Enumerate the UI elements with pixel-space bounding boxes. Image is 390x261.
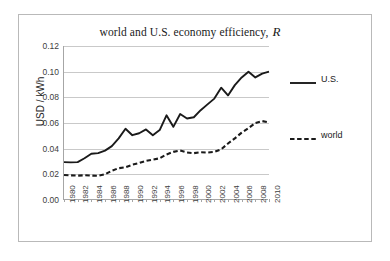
legend-entry: U.S. [290, 72, 366, 86]
y-tick-label: 0.02 [42, 169, 59, 179]
chart-title-text: world and U.S. economy efficiency, [100, 26, 269, 38]
chart-figure: world and U.S. economy efficiency,R USD … [0, 0, 390, 261]
y-tick-label: 0.12 [42, 41, 59, 51]
x-tick-mark [269, 199, 270, 202]
y-tick-label: 0.06 [42, 118, 59, 128]
legend-label: U.S. [321, 74, 339, 84]
plot-area: 0.120.100.080.060.040.020.00 19801982198… [63, 46, 268, 200]
legend-entry: world [290, 128, 366, 142]
series-line-world [64, 121, 269, 176]
x-tick-label: 2010 [273, 185, 282, 203]
legend-swatch-solid [290, 74, 316, 84]
legend-swatch-dashed [290, 130, 316, 140]
series-line-u-s [64, 72, 269, 163]
chart-legend: U.S.world [290, 72, 366, 184]
y-tick-label: 0.00 [42, 195, 59, 205]
y-tick-label: 0.04 [42, 144, 59, 154]
legend-label: world [321, 130, 343, 140]
series-lines [64, 46, 269, 200]
y-tick-label: 0.08 [42, 92, 59, 102]
chart-title: world and U.S. economy efficiency,R [40, 24, 340, 40]
y-tick-label: 0.10 [42, 67, 59, 77]
chart-title-symbol: R [268, 24, 280, 39]
